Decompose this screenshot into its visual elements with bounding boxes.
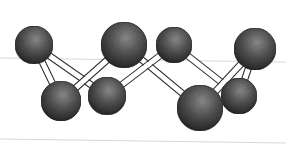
atom-sphere xyxy=(101,22,147,68)
atom-sphere xyxy=(234,28,276,70)
atom-spheres xyxy=(15,22,276,131)
guide-line xyxy=(0,139,286,143)
atom-sphere xyxy=(221,78,257,114)
molecule-illustration xyxy=(0,0,286,145)
atom-sphere xyxy=(15,26,53,64)
atom-sphere xyxy=(88,77,126,115)
atom-sphere xyxy=(41,81,81,121)
atom-sphere xyxy=(156,27,192,63)
ball-and-stick-drawing xyxy=(0,0,286,145)
atom-sphere xyxy=(177,85,223,131)
